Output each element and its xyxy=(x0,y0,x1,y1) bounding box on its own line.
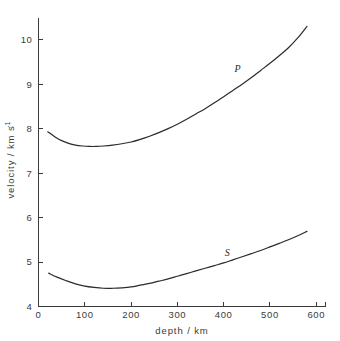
y-tick-label-9: 9 xyxy=(27,79,33,90)
x-tick-label-600: 600 xyxy=(307,309,325,320)
y-tick-label-5: 5 xyxy=(27,256,33,267)
y-axis-title-exponent: -1 xyxy=(4,121,11,127)
curve-S xyxy=(49,231,307,288)
series-labels: PS xyxy=(225,63,241,258)
y-tick-label-8: 8 xyxy=(27,123,33,134)
x-tick-label-200: 200 xyxy=(122,309,140,320)
data-curves xyxy=(48,26,307,288)
y-tick-label-7: 7 xyxy=(27,168,33,179)
axes xyxy=(39,18,326,307)
velocity-depth-chart: 010020030040050060045678910 PS depth / k… xyxy=(0,0,340,341)
x-tick-label-500: 500 xyxy=(261,309,279,320)
y-axis-title-group: velocity / km s-1 xyxy=(4,121,16,198)
chart-canvas: 010020030040050060045678910 PS depth / k… xyxy=(0,0,340,341)
series-label-P: P xyxy=(233,63,240,74)
series-label-S: S xyxy=(225,247,230,258)
y-tick-label-4: 4 xyxy=(27,301,33,312)
x-axis-title: depth / km xyxy=(155,325,208,336)
tick-marks xyxy=(39,40,326,307)
axis-titles: depth / kmvelocity / km s-1 xyxy=(4,121,209,335)
curve-P xyxy=(48,26,307,146)
x-tick-label-0: 0 xyxy=(36,309,42,320)
y-axis-title: velocity / km s xyxy=(5,125,16,198)
y-tick-label-6: 6 xyxy=(27,212,33,223)
x-tick-label-100: 100 xyxy=(76,309,94,320)
x-tick-label-300: 300 xyxy=(169,309,187,320)
y-tick-label-10: 10 xyxy=(21,34,33,45)
x-tick-label-400: 400 xyxy=(215,309,233,320)
